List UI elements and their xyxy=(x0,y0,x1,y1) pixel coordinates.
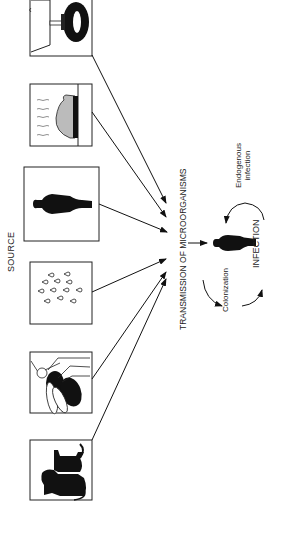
host-person-icon xyxy=(213,235,256,251)
endogenous-line2: infection xyxy=(243,143,252,188)
endogenous-infection-label: Endogenous infection xyxy=(234,143,252,188)
arrow-insect xyxy=(92,272,166,379)
source-box-animals xyxy=(30,440,92,500)
infection-label: INFECTION xyxy=(251,220,261,269)
arrow-food xyxy=(92,112,166,217)
arrow-person xyxy=(99,204,167,232)
arrow-toilet xyxy=(92,55,166,203)
source-box-droplets xyxy=(30,262,92,324)
toilet-tap-icon xyxy=(30,0,90,52)
colonization-label: Colonization xyxy=(221,268,230,312)
endogenous-line1: Endogenous xyxy=(234,143,243,188)
arrow-droplets xyxy=(92,259,166,292)
arrow-animals xyxy=(92,279,166,440)
source-box-food xyxy=(30,84,92,146)
food-icon xyxy=(37,95,78,138)
colonization-arrow xyxy=(203,280,222,306)
source-label: SOURCE xyxy=(6,232,16,272)
transmission-arrows xyxy=(92,55,207,440)
source-box-person xyxy=(24,167,99,241)
insect-icon xyxy=(31,358,90,415)
person-icon xyxy=(33,194,92,214)
colonization-to-infection-arrow xyxy=(242,290,262,306)
source-box-insect xyxy=(30,352,92,415)
source-box-toilet xyxy=(30,0,93,56)
diagram-canvas xyxy=(0,0,281,545)
droplets-icon xyxy=(38,272,82,303)
animals-icon xyxy=(41,444,86,500)
transmission-label: TRANSMISSION OF MICROORGANISMS xyxy=(178,168,188,330)
